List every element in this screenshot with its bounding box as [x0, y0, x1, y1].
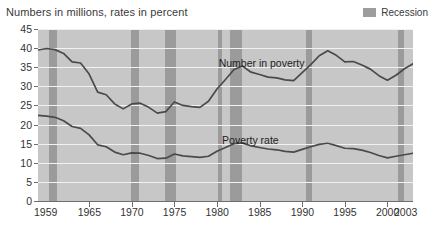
x-axis-tick	[260, 202, 261, 207]
annotation-poverty-rate: Poverty rate	[222, 134, 279, 146]
x-axis-tick-label: 2003	[394, 206, 417, 218]
x-axis-tick	[345, 202, 346, 207]
x-axis-tick-label: 1995	[333, 206, 356, 218]
series-lines	[38, 29, 413, 201]
y-axis-tick	[34, 48, 38, 49]
x-axis-tick-label: 1970	[120, 206, 143, 218]
annotation-number-in-poverty: Number in poverty	[219, 57, 305, 69]
plot-area	[38, 29, 413, 201]
chart-root: Numbers in millions, rates in percent Re…	[0, 0, 436, 244]
y-axis-tick	[34, 201, 38, 202]
y-axis-tick-label: 5	[2, 177, 32, 187]
x-axis-tick-label: 1959	[34, 206, 57, 218]
y-axis-tick	[34, 125, 38, 126]
y-axis-tick-label: 25	[2, 100, 32, 110]
y-axis-tick	[34, 163, 38, 164]
y-axis-tick	[34, 144, 38, 145]
x-axis-tick-label: 1965	[78, 206, 101, 218]
x-axis-tick	[217, 202, 218, 207]
legend: Recession	[363, 7, 428, 18]
y-axis-tick-label: 45	[2, 24, 32, 34]
x-axis-tick	[174, 202, 175, 207]
y-axis-tick-label: 30	[2, 81, 32, 91]
x-axis-tick-label: 1980	[205, 206, 228, 218]
y-axis-tick	[34, 29, 38, 30]
y-axis-tick-label: 20	[2, 120, 32, 130]
y-axis-tick	[34, 67, 38, 68]
y-axis-tick-label: 10	[2, 158, 32, 168]
x-axis-tick	[132, 202, 133, 207]
x-axis-line	[38, 201, 413, 202]
recession-swatch-icon	[363, 8, 376, 17]
y-axis-tick-label: 40	[2, 43, 32, 53]
x-axis-tick-label: 1990	[291, 206, 314, 218]
x-axis-tick	[89, 202, 90, 207]
chart-subtitle: Numbers in millions, rates in percent	[6, 6, 188, 18]
y-axis-tick	[34, 105, 38, 106]
legend-label-recession: Recession	[381, 7, 428, 18]
y-axis-tick-label: 15	[2, 139, 32, 149]
x-axis-tick	[387, 202, 388, 207]
y-axis-tick-label: 35	[2, 62, 32, 72]
x-axis-tick-label: 1985	[248, 206, 271, 218]
x-axis-tick	[302, 202, 303, 207]
y-axis-tick-label: 0	[2, 196, 32, 206]
y-axis-tick	[34, 86, 38, 87]
y-axis-tick	[34, 182, 38, 183]
x-axis-tick-label: 1975	[163, 206, 186, 218]
